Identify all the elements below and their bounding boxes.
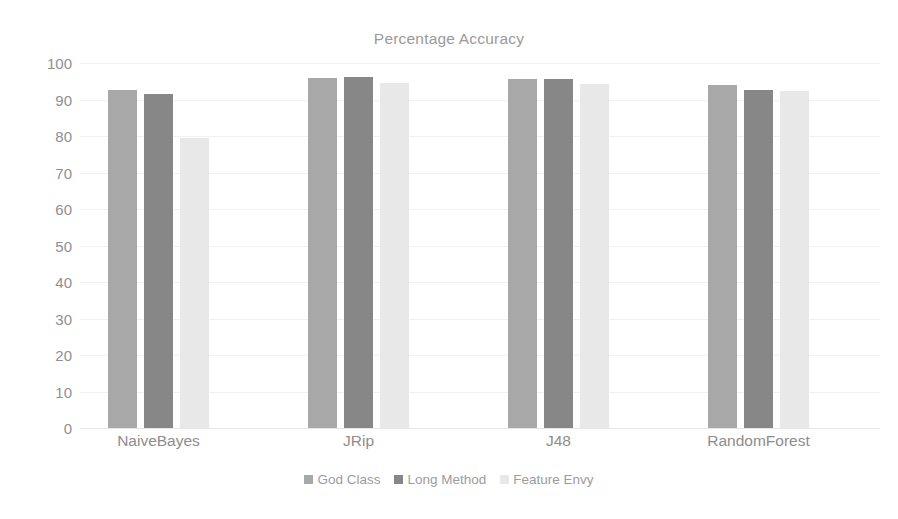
y-axis-tick-label: 10 — [0, 384, 72, 399]
gridline — [80, 428, 880, 429]
bar[interactable] — [180, 138, 209, 428]
bar-group — [108, 63, 209, 428]
bar-group — [708, 63, 809, 428]
chart-title: Percentage Accuracy — [0, 30, 898, 48]
chart-container: Percentage Accuracy 10090807060504030201… — [0, 0, 898, 519]
y-axis-tick-label: 100 — [0, 56, 72, 71]
chart-legend: God ClassLong MethodFeature Envy — [0, 472, 898, 487]
bar[interactable] — [780, 91, 809, 428]
y-axis-tick-label: 30 — [0, 311, 72, 326]
y-axis: 1009080706050403020100 — [0, 63, 72, 428]
x-axis: NaiveBayesJRipJ48RandomForest — [80, 432, 880, 460]
y-axis-tick-label: 70 — [0, 165, 72, 180]
y-axis-tick-label: 40 — [0, 275, 72, 290]
x-axis-tick-label: NaiveBayes — [117, 432, 200, 450]
bar[interactable] — [708, 85, 737, 428]
bar[interactable] — [344, 77, 373, 428]
plot-area — [80, 63, 880, 428]
x-axis-tick-label: JRip — [343, 432, 374, 450]
legend-label: God Class — [317, 472, 380, 487]
legend-item[interactable]: God Class — [304, 472, 380, 487]
legend-swatch-icon — [394, 475, 403, 484]
legend-item[interactable]: Feature Envy — [500, 472, 593, 487]
y-axis-tick-label: 90 — [0, 92, 72, 107]
legend-swatch-icon — [304, 475, 313, 484]
y-axis-tick-label: 50 — [0, 238, 72, 253]
x-axis-tick-label: RandomForest — [707, 432, 810, 450]
y-axis-tick-label: 0 — [0, 421, 72, 436]
y-axis-tick-label: 60 — [0, 202, 72, 217]
legend-item[interactable]: Long Method — [394, 472, 486, 487]
legend-label: Long Method — [407, 472, 486, 487]
bar[interactable] — [544, 79, 573, 428]
bar[interactable] — [144, 94, 173, 428]
bar[interactable] — [580, 84, 609, 428]
bar-group — [308, 63, 409, 428]
legend-label: Feature Envy — [513, 472, 593, 487]
bar[interactable] — [108, 90, 137, 428]
bar[interactable] — [508, 79, 537, 428]
bar[interactable] — [380, 83, 409, 428]
y-axis-tick-label: 20 — [0, 348, 72, 363]
bar[interactable] — [744, 90, 773, 428]
x-axis-tick-label: J48 — [546, 432, 571, 450]
y-axis-tick-label: 80 — [0, 129, 72, 144]
legend-swatch-icon — [500, 475, 509, 484]
bar[interactable] — [308, 78, 337, 428]
bar-group — [508, 63, 609, 428]
